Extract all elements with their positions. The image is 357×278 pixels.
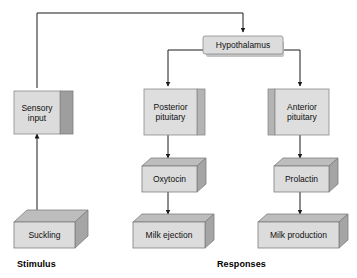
suckling-face (14, 222, 75, 248)
anterior-pituitary-side (268, 89, 275, 135)
milk-ejection-top (133, 214, 214, 222)
section-label-responses: Responses (217, 259, 266, 269)
sensory-input-face (14, 91, 60, 134)
oxytocin-face (142, 166, 197, 192)
flowchart-graphic (0, 0, 357, 278)
node-milk-production[interactable] (258, 214, 348, 248)
node-posterior-pituitary[interactable] (144, 89, 205, 135)
node-sensory-input[interactable] (14, 91, 73, 134)
section-label-stimulus: Stimulus (17, 259, 56, 269)
node-anterior-pituitary[interactable] (268, 89, 329, 135)
oxytocin-top (142, 158, 206, 166)
milk-production-top (258, 214, 348, 222)
milk-production-face (258, 222, 339, 248)
sensory-input-side (60, 91, 73, 134)
prolactin-face (274, 166, 329, 192)
node-milk-ejection[interactable] (133, 214, 214, 248)
milk-ejection-face (133, 222, 205, 248)
node-hypothalamus[interactable] (203, 36, 284, 57)
anterior-pituitary-face (275, 89, 329, 135)
node-oxytocin[interactable] (142, 158, 206, 192)
prolactin-top (274, 158, 338, 166)
diagram-canvas: Hypothalamus Sensory input Posterior pit… (0, 0, 357, 278)
node-prolactin[interactable] (274, 158, 338, 192)
node-suckling[interactable] (14, 210, 88, 248)
posterior-pituitary-side (197, 89, 205, 135)
edge-hypothalamus-to-posterior-pituitary (168, 50, 203, 86)
hypothalamus-face (203, 36, 283, 54)
edge-hypothalamus-to-anterior-pituitary (283, 50, 300, 86)
posterior-pituitary-face (144, 89, 197, 135)
